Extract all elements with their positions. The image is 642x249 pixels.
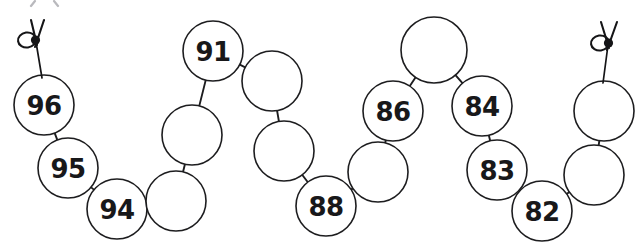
bead-circle[interactable] xyxy=(254,121,314,181)
bead-label: 84 xyxy=(464,92,499,122)
bead-label: 83 xyxy=(479,156,514,186)
bead-labeled-96[interactable]: 96 xyxy=(14,75,74,135)
bead-blank-bead-17[interactable] xyxy=(574,81,634,141)
bead-labeled-83[interactable]: 83 xyxy=(467,140,527,200)
bead-circle[interactable] xyxy=(242,51,302,111)
bead-label: 86 xyxy=(375,97,410,127)
bead-blank-bead-10[interactable] xyxy=(348,142,408,202)
bead-label: 82 xyxy=(524,197,559,227)
bead-blank-bead-8[interactable] xyxy=(254,121,314,181)
corner-mark-icon xyxy=(31,1,58,6)
bead-chain-figure: 969594918886848382 xyxy=(0,0,642,249)
beads-layer: 969594918886848382 xyxy=(14,17,634,241)
bead-label: 96 xyxy=(26,91,61,121)
bead-blank-bead-12[interactable] xyxy=(401,17,467,83)
bead-circle[interactable] xyxy=(574,81,634,141)
bead-blank-bead-7[interactable] xyxy=(242,51,302,111)
bead-link xyxy=(455,74,463,84)
bead-label: 95 xyxy=(50,154,85,184)
bead-circle[interactable] xyxy=(146,171,206,231)
bead-labeled-94[interactable]: 94 xyxy=(87,179,147,239)
bead-labeled-91[interactable]: 91 xyxy=(183,21,243,81)
bead-blank-bead-16[interactable] xyxy=(564,145,624,205)
bead-circle[interactable] xyxy=(564,145,624,205)
bead-link xyxy=(199,79,206,107)
bead-labeled-86[interactable]: 86 xyxy=(363,81,423,141)
bead-labeled-82[interactable]: 82 xyxy=(512,181,572,241)
knot-left-icon xyxy=(17,20,44,78)
bead-circle[interactable] xyxy=(348,142,408,202)
bead-circle[interactable] xyxy=(401,17,467,83)
bead-blank-bead-5[interactable] xyxy=(162,105,222,165)
bead-label: 88 xyxy=(308,192,343,222)
bead-label: 91 xyxy=(195,37,230,67)
bead-circle[interactable] xyxy=(162,105,222,165)
bead-label: 94 xyxy=(99,195,134,225)
bead-link xyxy=(409,77,416,87)
bead-blank-bead-4[interactable] xyxy=(146,171,206,231)
knot-right-icon xyxy=(590,22,617,83)
bead-labeled-84[interactable]: 84 xyxy=(452,76,512,136)
bead-labeled-88[interactable]: 88 xyxy=(296,176,356,236)
bead-link xyxy=(277,110,279,123)
bead-labeled-95[interactable]: 95 xyxy=(38,138,98,198)
